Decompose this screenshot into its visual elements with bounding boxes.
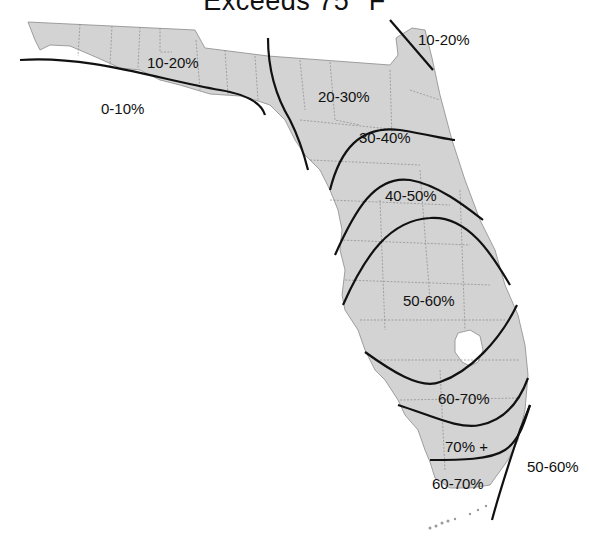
zone-label-south-central: 50-60% <box>403 293 455 308</box>
zone-label-central: 40-50% <box>385 188 437 203</box>
zone-label-north-central: 20-30% <box>318 89 370 104</box>
zone-label-panhandle-north: 10-20% <box>147 55 199 70</box>
florida-landmass <box>28 22 528 488</box>
florida-keys <box>429 505 488 530</box>
zone-label-southmost: 70% + <box>445 439 488 454</box>
zone-label-north-east: 30-40% <box>359 130 411 145</box>
zone-label-panhandle-south: 0-10% <box>101 101 144 116</box>
zone-label-ne-coast: 10-20% <box>418 32 470 47</box>
florida-map <box>0 0 589 544</box>
zone-label-south: 60-70% <box>438 391 490 406</box>
zone-label-atlantic: 50-60% <box>527 459 579 474</box>
zone-label-keys: 60-70% <box>432 476 484 491</box>
